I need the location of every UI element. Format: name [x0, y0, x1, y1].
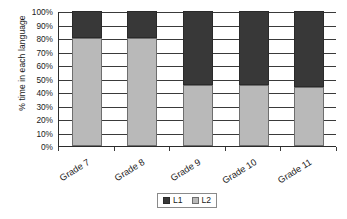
stacked-bar-chart: % time in each language 0%10%20%30%40%50…: [0, 0, 347, 219]
bar-segment-l1[interactable]: [294, 11, 324, 87]
bar-segment-l1[interactable]: [183, 11, 213, 85]
y-axis-tick-label: 30%: [36, 102, 53, 111]
legend-item-label: L1: [173, 196, 183, 205]
bar-segment-l2[interactable]: [294, 87, 324, 146]
y-axis-tick-label: 50%: [36, 75, 53, 84]
bar-group[interactable]: [239, 12, 269, 146]
x-axis-tick-label: Grade 10: [214, 157, 258, 190]
legend-item-label: L2: [202, 196, 212, 205]
bar-segment-l1[interactable]: [72, 11, 102, 38]
bar-group[interactable]: [72, 12, 102, 146]
y-axis-tick-label: 60%: [36, 62, 53, 71]
bar-segment-l1[interactable]: [239, 11, 269, 85]
bar-group[interactable]: [183, 12, 213, 146]
legend-swatch-icon: [163, 197, 170, 204]
bar-segment-l2[interactable]: [239, 85, 269, 146]
x-axis-tick-label: Grade 8: [102, 157, 146, 190]
x-axis-tick: [336, 147, 337, 151]
y-axis-tick-label: 0%: [41, 143, 53, 152]
chart-legend: L1L2: [157, 193, 217, 208]
bars-layer: [59, 12, 336, 146]
legend-item-l1[interactable]: L1: [163, 196, 183, 205]
y-axis-tick-label: 100%: [32, 8, 53, 17]
y-axis-tick-label: 90%: [36, 21, 53, 30]
bar-group[interactable]: [294, 12, 324, 146]
y-axis-tick-label: 20%: [36, 116, 53, 125]
x-axis-tick-label: Grade 7: [47, 157, 91, 190]
y-axis-tick-labels: 0%10%20%30%40%50%60%70%80%90%100%: [14, 12, 56, 147]
y-axis-tick-label: 80%: [36, 35, 53, 44]
bar-segment-l2[interactable]: [72, 38, 102, 146]
x-axis-tick-label: Grade 11: [269, 157, 313, 190]
legend-item-l2[interactable]: L2: [192, 196, 212, 205]
legend-swatch-icon: [192, 197, 199, 204]
y-axis-tick-label: 70%: [36, 48, 53, 57]
x-axis-tick-labels: Grade 7Grade 8Grade 9Grade 10Grade 11: [58, 151, 336, 191]
y-axis-tick-label: 10%: [36, 129, 53, 138]
bar-segment-l2[interactable]: [183, 85, 213, 146]
bar-segment-l2[interactable]: [127, 38, 157, 146]
bar-group[interactable]: [127, 12, 157, 146]
plot-area: [58, 12, 336, 147]
bar-segment-l1[interactable]: [127, 11, 157, 38]
y-axis-tick-label: 40%: [36, 89, 53, 98]
x-axis-tick-label: Grade 9: [158, 157, 202, 190]
